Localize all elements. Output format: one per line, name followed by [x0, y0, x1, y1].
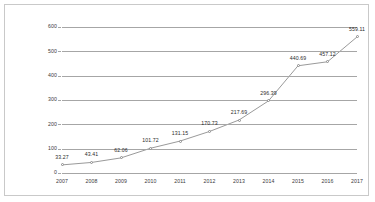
x-axis-line: [62, 173, 357, 174]
x-axis-tick-label: 2016: [313, 179, 343, 184]
data-point-marker: [208, 130, 211, 133]
data-point-marker: [297, 64, 300, 67]
x-axis-tick-label: 2009: [106, 179, 136, 184]
data-point-marker: [90, 161, 93, 164]
y-axis-tick-label: 200: [35, 122, 57, 127]
y-axis-tick-mark: [58, 51, 61, 52]
y-axis-tick-mark: [58, 173, 61, 174]
data-point-marker: [149, 147, 152, 150]
x-axis-tick-label: 2012: [195, 179, 225, 184]
data-point-label: 131.15: [160, 131, 200, 136]
x-axis-tick-label: 2015: [283, 179, 313, 184]
y-axis-tick-label: 0: [35, 170, 57, 175]
data-point-label: 217.69: [219, 110, 259, 115]
x-axis-tick-label: 2017: [342, 179, 372, 184]
y-axis-tick-mark: [58, 27, 61, 28]
y-axis-tick-mark: [58, 149, 61, 150]
gridline: [62, 76, 357, 77]
x-axis-tick-label: 2013: [224, 179, 254, 184]
x-axis-tick-label: 2008: [77, 179, 107, 184]
data-point-marker: [238, 119, 241, 122]
data-point-label: 101.72: [131, 138, 171, 143]
chart-frame: 0100200300400500600200720082009201020112…: [4, 4, 369, 196]
y-axis-tick-mark: [58, 76, 61, 77]
x-axis-tick-label: 2010: [136, 179, 166, 184]
gridline: [62, 100, 357, 101]
x-axis-tick-label: 2007: [47, 179, 77, 184]
y-axis-tick-label: 100: [35, 146, 57, 151]
data-point-label: 170.73: [190, 121, 230, 126]
data-point-label: 62.06: [101, 148, 141, 153]
gridline: [62, 27, 357, 28]
y-axis-tick-label: 300: [35, 97, 57, 102]
data-point-label: 296.39: [249, 91, 289, 96]
x-axis-tick-label: 2014: [254, 179, 284, 184]
data-point-label: 559.11: [337, 27, 375, 32]
y-axis-tick-label: 500: [35, 49, 57, 54]
data-point-label: 457.12: [308, 52, 348, 57]
y-axis-tick-mark: [58, 124, 61, 125]
y-axis-tick-label: 600: [35, 24, 57, 29]
data-point-marker: [179, 140, 182, 143]
y-axis-tick-label: 400: [35, 73, 57, 78]
x-axis-tick-label: 2011: [165, 179, 195, 184]
data-point-label: 43.41: [72, 152, 112, 157]
y-axis-tick-mark: [58, 100, 61, 101]
